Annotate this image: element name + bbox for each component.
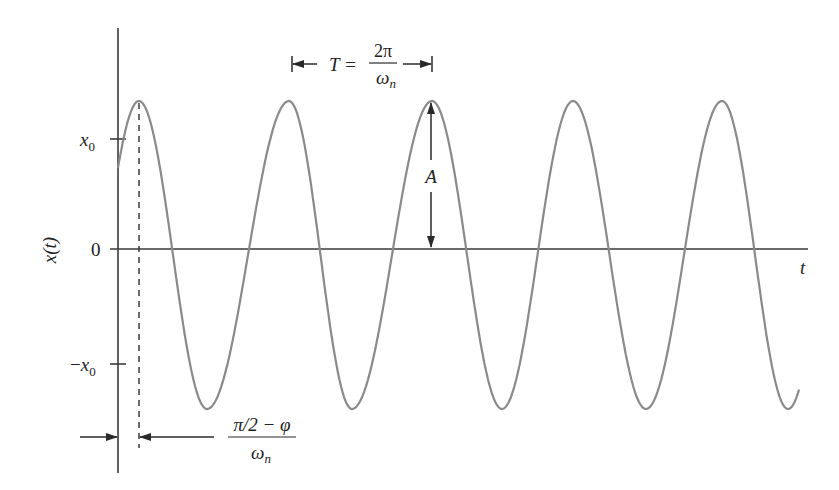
phase-numerator: π/2 − φ [233, 414, 290, 435]
phase-offset-annotation: π/2 − φ ωn [80, 414, 296, 466]
amplitude-label: A [423, 166, 437, 187]
period-numerator: 2π [374, 41, 392, 61]
amplitude-annotation: A [423, 103, 437, 247]
phase-denominator: ωn [251, 442, 271, 466]
tick-label-x0: x0 [79, 129, 95, 154]
y-axis-label: x(t) [39, 237, 61, 264]
period-lhs: T = [329, 54, 357, 75]
tick-label-zero: 0 [91, 239, 101, 260]
period-denominator: ωn [376, 67, 396, 91]
response-curve [118, 101, 799, 409]
vibration-diagram: x0 0 −x0 x(t) t T = 2π ωn A π/2 − φ ωn [0, 0, 839, 490]
x-axis-label: t [800, 257, 806, 278]
tick-label-neg-x0: −x0 [70, 354, 96, 379]
period-annotation: T = 2π ωn [292, 41, 432, 91]
